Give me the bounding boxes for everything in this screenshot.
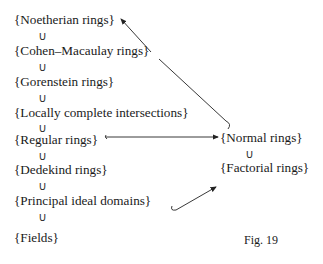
figure-caption: Fig. 19 xyxy=(244,233,278,248)
node-dedekind-rings: {Dedekind rings} xyxy=(14,162,108,177)
subset-symbol: ∪ xyxy=(38,211,47,223)
subset-symbol: ∪ xyxy=(38,150,47,162)
subset-symbol: ∪ xyxy=(38,180,47,192)
subset-symbol: ∪ xyxy=(38,92,47,104)
arrow-regular-to-normal xyxy=(105,135,218,139)
arrow-pid-to-factorial xyxy=(172,187,217,210)
subset-symbol: ∪ xyxy=(38,30,47,42)
subset-symbol: ∪ xyxy=(245,148,254,160)
node-noetherian-rings: {Noetherian rings} xyxy=(14,12,115,27)
node-gorenstein-rings: {Gorenstein rings} xyxy=(14,74,114,89)
node-locally-complete-intersections: {Locally complete intersections} xyxy=(14,105,189,120)
subset-symbol: ∪ xyxy=(38,61,47,73)
node-fields: {Fields} xyxy=(14,230,59,245)
node-factorial-rings: {Factorial rings} xyxy=(220,160,309,175)
node-normal-rings: {Normal rings} xyxy=(220,130,303,145)
node-regular-rings: {Regular rings} xyxy=(14,132,98,147)
node-cohen-macaulay-rings: {Cohen–Macaulay rings} xyxy=(14,43,149,58)
node-principal-ideal-domains: {Principal ideal domains} xyxy=(14,193,151,208)
